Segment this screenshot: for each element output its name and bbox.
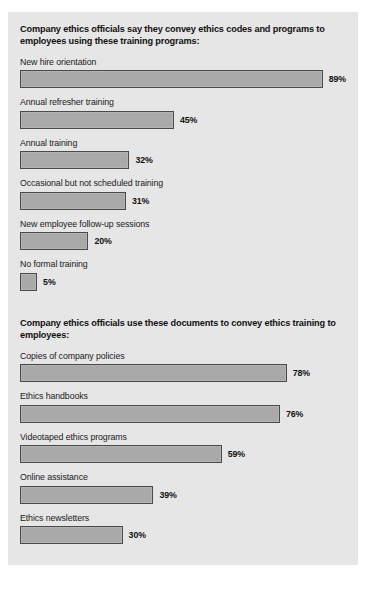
bar-track: 45% — [20, 111, 346, 129]
bar-row: Annual training32% — [8, 138, 358, 170]
bar-value-label: 76% — [286, 409, 303, 419]
bar-value-label: 31% — [132, 196, 149, 206]
bar-value-label: 5% — [43, 277, 56, 287]
bar-list-training: New hire orientation89%Annual refresher … — [8, 57, 358, 291]
bar-value-label: 39% — [159, 490, 176, 500]
bar-fill — [20, 364, 287, 382]
bar-track: 31% — [20, 192, 346, 210]
bar-fill — [20, 405, 280, 423]
bar-track: 32% — [20, 151, 346, 169]
bar-value-label: 32% — [135, 155, 152, 165]
section-training-heading: Company ethics officials say they convey… — [8, 12, 358, 48]
bar-fill — [20, 486, 153, 504]
bar-category-label: Online assistance — [20, 472, 346, 483]
bar-row: New hire orientation89% — [8, 57, 358, 89]
bar-value-label: 30% — [129, 530, 146, 540]
bar-fill — [20, 192, 126, 210]
bar-row: No formal training5% — [8, 259, 358, 291]
bar-track: 89% — [20, 70, 346, 88]
bar-track: 78% — [20, 364, 346, 382]
bar-row: Ethics handbooks76% — [8, 391, 358, 423]
bar-row: Ethics newsletters30% — [8, 513, 358, 545]
bar-category-label: No formal training — [20, 259, 346, 270]
bar-fill — [20, 232, 88, 250]
bar-fill — [20, 151, 129, 169]
bar-track: 20% — [20, 232, 346, 250]
bar-track: 59% — [20, 445, 346, 463]
bar-track: 76% — [20, 405, 346, 423]
bar-track: 39% — [20, 486, 346, 504]
bar-category-label: Copies of company policies — [20, 351, 346, 362]
bar-row: New employee follow-up sessions20% — [8, 219, 358, 251]
bar-row: Occasional but not scheduled training31% — [8, 178, 358, 210]
figure-card: Company ethics officials say they convey… — [8, 12, 358, 565]
bar-value-label: 78% — [293, 368, 310, 378]
bar-fill — [20, 111, 174, 129]
chart-section-documents: Company ethics officials use these docum… — [8, 311, 358, 544]
bar-category-label: Occasional but not scheduled training — [20, 178, 346, 189]
bar-value-label: 20% — [94, 236, 111, 246]
bar-fill — [20, 445, 222, 463]
bar-value-label: 59% — [228, 449, 245, 459]
bar-fill — [20, 70, 323, 88]
bar-list-documents: Copies of company policies78%Ethics hand… — [8, 351, 358, 545]
bar-category-label: Ethics handbooks — [20, 391, 346, 402]
bar-track: 5% — [20, 273, 346, 291]
section-divider — [8, 291, 358, 311]
bar-value-label: 45% — [180, 115, 197, 125]
bar-category-label: New employee follow-up sessions — [20, 219, 346, 230]
bar-value-label: 89% — [329, 74, 346, 84]
bar-fill — [20, 526, 123, 544]
section-documents-heading: Company ethics officials use these docum… — [8, 311, 358, 342]
chart-section-training: Company ethics officials say they convey… — [8, 12, 358, 291]
bar-row: Videotaped ethics programs59% — [8, 432, 358, 464]
bar-category-label: Ethics newsletters — [20, 513, 346, 524]
bar-fill — [20, 273, 37, 291]
bar-row: Online assistance39% — [8, 472, 358, 504]
bar-row: Copies of company policies78% — [8, 351, 358, 383]
bar-category-label: New hire orientation — [20, 57, 346, 68]
bar-category-label: Videotaped ethics programs — [20, 432, 346, 443]
bar-track: 30% — [20, 526, 346, 544]
bar-row: Annual refresher training45% — [8, 97, 358, 129]
bar-category-label: Annual training — [20, 138, 346, 149]
bar-category-label: Annual refresher training — [20, 97, 346, 108]
